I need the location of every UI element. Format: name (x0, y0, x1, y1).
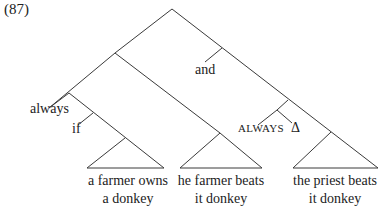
leaf-line: it donkey (285, 190, 383, 208)
leaf-line: a donkey (78, 190, 178, 208)
if-label: if (72, 121, 81, 136)
and-label: and (195, 62, 215, 77)
leaf-consequent-2: the priest beats it donkey (285, 172, 383, 208)
leaf-line: the priest beats (285, 172, 383, 190)
leaf-consequent-1: he farmer beats it donkey (171, 172, 271, 208)
example-number: (87) (4, 2, 29, 17)
leaf-antecedent: a farmer owns a donkey (78, 172, 178, 208)
leaf-line: a farmer owns (78, 172, 178, 190)
leaf-line: it donkey (171, 190, 271, 208)
always-label: always (30, 101, 69, 116)
leaf-line: he farmer beats (171, 172, 271, 190)
always-caps-label: ALWAYS (238, 121, 284, 136)
delta-label: Δ (291, 120, 300, 135)
